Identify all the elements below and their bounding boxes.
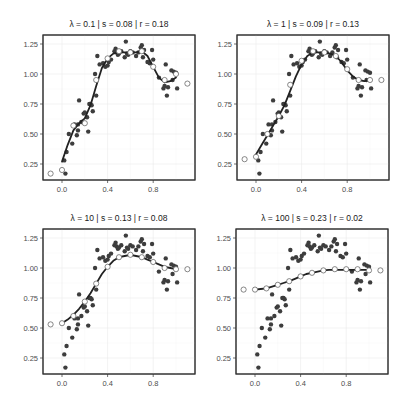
- knot-marker: [82, 299, 87, 304]
- data-point: [312, 243, 316, 247]
- y-tick-label: 1.00: [23, 264, 38, 273]
- knot-marker: [82, 121, 87, 126]
- data-point: [109, 251, 113, 255]
- knot-marker: [94, 77, 99, 82]
- y-tick-label: 0.75: [216, 294, 231, 303]
- knot-marker: [48, 322, 53, 327]
- panel-title: λ = 10 | s = 0.13 | r = 0.08: [71, 213, 168, 223]
- x-tick-label: 0.4: [296, 185, 306, 194]
- data-point: [317, 233, 321, 237]
- y-tick-label: 0.25: [216, 354, 231, 363]
- knot-marker: [345, 67, 350, 72]
- knot-marker: [378, 268, 383, 273]
- data-point: [77, 292, 81, 296]
- data-point: [141, 55, 145, 59]
- data-point: [136, 244, 140, 248]
- data-point: [270, 292, 274, 296]
- y-tick-label: 0.25: [23, 160, 38, 169]
- knot-marker: [355, 267, 360, 272]
- data-point: [261, 132, 265, 136]
- x-tick-label: 0.0: [57, 185, 67, 194]
- knot-marker: [356, 77, 361, 82]
- y-tick-label: 0.25: [217, 160, 232, 169]
- knot-marker: [366, 268, 371, 273]
- panel-title: λ = 1 | s = 0.09 | r = 0.13: [267, 19, 359, 29]
- y-tick-label: 1.25: [216, 234, 231, 243]
- knot-marker: [322, 50, 327, 55]
- x-tick-label: 0.8: [148, 379, 158, 388]
- knot-marker: [116, 49, 121, 54]
- data-point: [175, 86, 179, 90]
- data-point: [368, 71, 372, 75]
- data-point: [284, 303, 288, 307]
- data-point: [151, 251, 155, 255]
- data-point: [279, 323, 283, 327]
- data-point: [287, 287, 291, 291]
- knot-marker: [128, 50, 133, 55]
- knot-marker: [276, 113, 281, 118]
- data-point: [280, 129, 284, 133]
- y-tick-label: 0.50: [217, 130, 232, 139]
- data-point: [165, 93, 169, 97]
- data-point: [94, 287, 98, 291]
- data-point: [333, 237, 337, 241]
- data-point: [95, 248, 99, 252]
- knot-marker: [321, 268, 326, 273]
- data-point: [165, 287, 169, 291]
- knot-marker: [128, 252, 133, 257]
- knot-marker: [59, 167, 64, 172]
- y-tick-label: 1.25: [23, 234, 38, 243]
- data-point: [335, 242, 339, 246]
- data-point: [124, 39, 128, 43]
- data-point: [77, 98, 81, 102]
- data-point: [67, 326, 71, 330]
- data-point: [256, 365, 260, 369]
- plot-frame: [237, 35, 389, 180]
- data-point: [95, 54, 99, 58]
- y-tick-label: 0.75: [217, 100, 232, 109]
- data-point: [260, 326, 264, 330]
- knot-marker: [333, 53, 338, 58]
- data-point: [318, 39, 322, 43]
- data-point: [269, 322, 273, 326]
- data-point: [140, 237, 144, 241]
- data-point: [278, 309, 282, 313]
- data-point: [336, 48, 340, 52]
- data-point: [289, 54, 293, 58]
- plot-frame: [43, 35, 195, 180]
- y-tick-label: 0.75: [23, 100, 38, 109]
- knot-marker: [59, 321, 64, 326]
- knot-marker: [185, 81, 190, 86]
- x-tick-label: 0.8: [148, 185, 158, 194]
- data-point: [257, 171, 261, 175]
- data-point: [142, 242, 146, 246]
- knot-marker: [288, 82, 293, 87]
- panel-lambda-10: λ = 10 | s = 0.13 | r = 0.080.250.500.75…: [23, 213, 195, 388]
- knot-marker: [71, 313, 76, 318]
- panel-lambda-100: λ = 100 | s = 0.23 | r = 0.020.250.500.7…: [216, 213, 388, 388]
- data-point: [345, 57, 349, 61]
- panel-lambda-1: λ = 1 | s = 0.09 | r = 0.130.250.500.751…: [217, 19, 389, 194]
- data-point: [91, 303, 95, 307]
- knot-marker: [48, 171, 53, 176]
- data-point: [359, 279, 363, 283]
- data-point: [175, 280, 179, 284]
- data-point: [344, 251, 348, 255]
- data-point: [124, 233, 128, 237]
- knot-marker: [265, 131, 270, 136]
- data-point: [286, 266, 290, 270]
- data-point: [368, 280, 372, 284]
- data-point: [141, 249, 145, 253]
- data-point: [93, 72, 97, 76]
- data-point: [119, 243, 123, 247]
- data-point: [166, 279, 170, 283]
- knot-marker: [287, 279, 292, 284]
- data-point: [282, 297, 286, 301]
- knot-marker: [173, 267, 178, 272]
- data-point: [323, 244, 327, 248]
- knot-marker: [275, 282, 280, 287]
- data-point: [70, 141, 74, 145]
- data-point: [150, 48, 154, 52]
- data-point: [76, 322, 80, 326]
- data-point: [360, 85, 364, 89]
